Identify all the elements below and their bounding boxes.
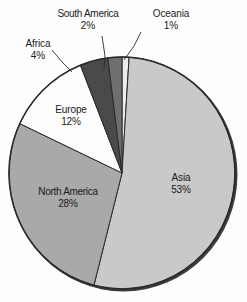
slice-label-asia: Asia 53%	[155, 172, 207, 195]
slice-label-south-america: South America 2%	[36, 8, 140, 31]
slice-label-oceania-name: Oceania	[140, 8, 202, 20]
slice-label-south-america-name: South America	[36, 8, 140, 20]
slice-label-north-america: North America 28%	[17, 186, 119, 209]
slice-label-oceania-percent: 1%	[140, 20, 202, 32]
slice-label-europe-percent: 12%	[38, 116, 104, 128]
slice-label-north-america-name: North America	[17, 186, 119, 198]
slice-label-africa-name: Africa	[12, 38, 64, 50]
slice-label-africa: Africa 4%	[12, 38, 64, 61]
slice-label-oceania: Oceania 1%	[140, 8, 202, 31]
slice-label-africa-percent: 4%	[12, 50, 64, 62]
slice-label-asia-name: Asia	[155, 172, 207, 184]
slice-label-europe: Europe 12%	[38, 104, 104, 127]
slice-label-asia-percent: 53%	[155, 184, 207, 196]
slice-label-europe-name: Europe	[38, 104, 104, 116]
slice-label-north-america-percent: 28%	[17, 198, 119, 210]
slice-label-south-america-percent: 2%	[36, 20, 140, 32]
pie-chart: South America 2% Oceania 1% Africa 4% Eu…	[0, 0, 247, 302]
leader-line-oceania	[124, 32, 141, 60]
